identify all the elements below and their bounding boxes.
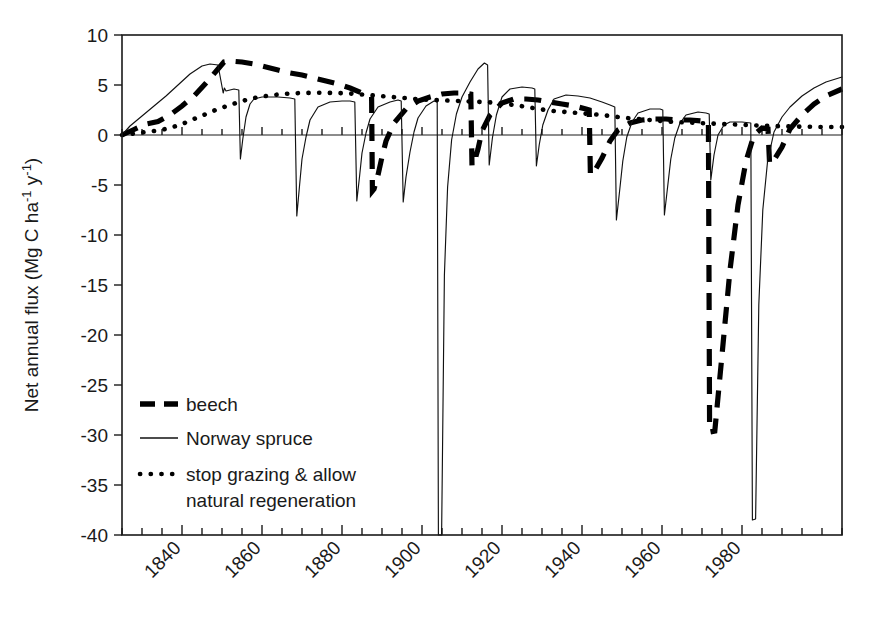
y-tick-label: -20 [81, 325, 108, 346]
legend-label-norway-spruce: Norway spruce [186, 428, 313, 449]
y-tick-label: -5 [91, 175, 108, 196]
net-annual-flux-chart: 1050-5-10-15-20-25-30-35-40 184018601880… [0, 0, 872, 622]
legend-label-beech: beech [186, 394, 238, 415]
y-tick-label: 0 [97, 125, 108, 146]
y-tick-label: -30 [81, 425, 108, 446]
y-tick-label: -10 [81, 225, 108, 246]
plot-background [0, 0, 872, 622]
y-tick-label: -35 [81, 475, 108, 496]
y-tick-label: -40 [81, 525, 108, 546]
legend-label-stop-grazing-line2: natural regeneration [186, 490, 356, 511]
y-tick-label: 10 [87, 25, 108, 46]
y-tick-label: -25 [81, 375, 108, 396]
y-tick-label: 5 [97, 75, 108, 96]
legend-label-stop-grazing: stop grazing & allow [186, 464, 356, 485]
figure-container: 1050-5-10-15-20-25-30-35-40 184018601880… [0, 0, 872, 622]
y-tick-label: -15 [81, 275, 108, 296]
